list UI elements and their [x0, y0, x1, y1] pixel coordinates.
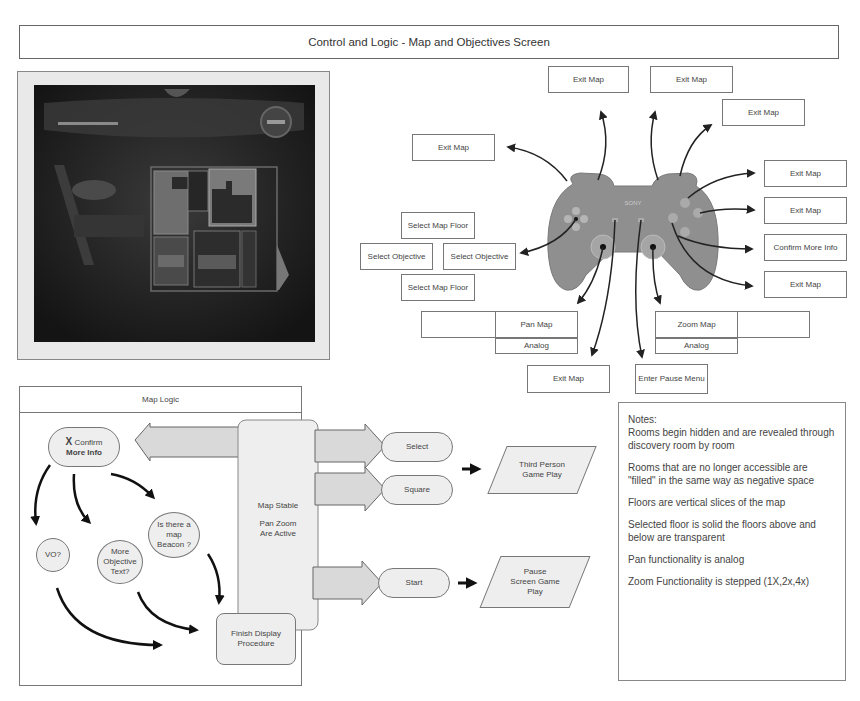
label-dpad-right-select-objective: Select Objective	[443, 243, 516, 270]
label-triangle-exit-map: Exit Map	[764, 160, 847, 187]
finish-display-procedure-node: Finish Display Procedure	[216, 613, 296, 665]
label-dpad-up-select-floor: Select Map Floor	[401, 212, 475, 239]
are-active-label: Are Active	[260, 529, 296, 539]
page-title: Control and Logic - Map and Objectives S…	[19, 25, 839, 59]
label-right-stick-zoom-map: Zoom Map	[655, 311, 738, 338]
note-item: Zoom Functionality is stepped (1X,2x,4x)	[628, 575, 836, 588]
map-stable-label: Map Stable	[258, 501, 298, 511]
exit-select-node: Select	[381, 432, 453, 462]
decision-map-beacon: Is there a map Beacon ?	[148, 512, 200, 558]
decision-vo: VO?	[36, 538, 70, 572]
zoom-map-spacer	[738, 311, 810, 338]
note-item: Selected floor is solid the floors above…	[628, 518, 836, 544]
label-l2-exit-map: Exit Map	[548, 66, 629, 93]
map-logic-title: Map Logic	[20, 387, 301, 413]
pan-zoom-label: Pan Zoom	[260, 519, 297, 529]
note-item: Rooms that are no longer accessible are …	[628, 461, 836, 487]
decision-more-objective-text: More Objective Text?	[97, 540, 143, 584]
label-start-pause-menu: Enter Pause Menu	[635, 364, 708, 394]
more-info-label: More Info	[66, 448, 102, 457]
result-third-person-gameplay: Third Person Game Play	[487, 446, 596, 494]
label-square-exit-map: Exit Map	[764, 271, 847, 298]
gamepad-icon: SONY	[548, 173, 718, 290]
map-stable-state: Map Stable Pan Zoom Are Active	[240, 490, 316, 550]
note-item: Pan functionality is analog	[628, 553, 836, 566]
map-screenshot-graphic	[34, 85, 315, 342]
note-item: Rooms begin hidden and are revealed thro…	[628, 426, 836, 452]
label-right-stick-analog: Analog	[655, 338, 738, 354]
label-circle-exit-map: Exit Map	[764, 197, 847, 224]
label-r2-exit-map: Exit Map	[650, 66, 733, 93]
notes-panel: Notes: Rooms begin hidden and are reveal…	[618, 402, 846, 681]
note-item: Floors are vertical slices of the map	[628, 496, 836, 509]
notes-heading: Notes:	[628, 413, 836, 426]
third-person-label: Third Person Game Play	[512, 460, 572, 480]
label-left-stick-pan-map: Pan Map	[495, 311, 578, 338]
label-dpad-left-select-objective: Select Objective	[360, 243, 433, 270]
label-r1-exit-map: Exit Map	[722, 99, 805, 126]
label-cross-confirm-more-info: Confirm More Info	[764, 234, 847, 261]
label-dpad-down-select-floor: Select Map Floor	[401, 274, 475, 301]
exit-square-node: Square	[381, 475, 453, 505]
game-map-screenshot	[34, 85, 315, 342]
exit-start-node: Start	[378, 568, 450, 598]
x-button-icon: X	[66, 436, 73, 447]
confirm-label: Confirm	[74, 438, 102, 447]
confirm-more-info-node: X Confirm More Info	[48, 427, 120, 467]
pan-map-spacer	[421, 311, 495, 338]
label-l1-exit-map: Exit Map	[412, 134, 495, 161]
game-screenshot-frame	[17, 71, 330, 360]
label-left-stick-analog: Analog	[495, 338, 578, 354]
label-select-exit-map: Exit Map	[527, 365, 610, 393]
result-pause-screen-gameplay: Pause Screen Game Play	[479, 556, 590, 608]
svg-text:SONY: SONY	[624, 200, 641, 206]
pause-screen-label: Pause Screen Game Play	[510, 567, 560, 597]
